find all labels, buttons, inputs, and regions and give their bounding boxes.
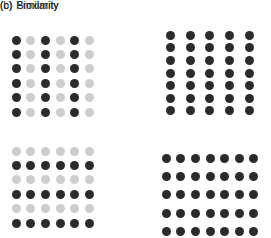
dot: [56, 93, 65, 102]
dot: [85, 108, 94, 117]
dot: [41, 175, 50, 184]
dot: [162, 172, 171, 181]
dot: [249, 154, 258, 163]
dot: [186, 43, 195, 52]
dot: [26, 219, 35, 228]
dot: [70, 64, 79, 73]
dot: [12, 219, 21, 228]
dot: [41, 204, 50, 213]
dot: [225, 81, 234, 90]
panel-proximity-tag: (c): [0, 0, 12, 11]
dot: [56, 79, 65, 88]
dot: [186, 81, 195, 90]
dot: [56, 147, 65, 156]
dot: [41, 108, 50, 117]
dot: [26, 50, 35, 59]
dot: [166, 94, 175, 103]
dot: [166, 43, 175, 52]
dot: [70, 79, 79, 88]
dot: [26, 108, 35, 117]
dot: [225, 56, 234, 65]
similarity-column-grouping-grid: [9, 33, 97, 119]
dot: [245, 69, 254, 78]
dot: [206, 154, 215, 163]
dot: [235, 209, 244, 218]
dot: [70, 175, 79, 184]
dot: [176, 227, 185, 236]
dot: [245, 94, 254, 103]
dot: [166, 106, 175, 115]
dot: [186, 94, 195, 103]
dot: [56, 50, 65, 59]
dot: [26, 175, 35, 184]
dot: [206, 209, 215, 218]
dot: [245, 106, 254, 115]
dot: [249, 209, 258, 218]
dot: [70, 219, 79, 228]
dot: [12, 190, 21, 199]
dot: [162, 190, 171, 199]
dot: [166, 56, 175, 65]
dot: [225, 31, 234, 40]
dot: [12, 36, 21, 45]
dot: [26, 36, 35, 45]
dot: [41, 190, 50, 199]
dot: [12, 64, 21, 73]
dot: [41, 219, 50, 228]
panel-proximity-title: (c)Proximity: [0, 0, 59, 11]
dot: [205, 106, 214, 115]
dot: [26, 161, 35, 170]
dot: [191, 190, 200, 199]
dot: [41, 36, 50, 45]
panel-proximity-label: Proximity: [16, 0, 58, 11]
dot: [70, 204, 79, 213]
dot: [191, 227, 200, 236]
dot: [205, 56, 214, 65]
dot: [206, 172, 215, 181]
proximity-row-grouping-grid: [159, 149, 261, 238]
dot: [186, 69, 195, 78]
dot: [70, 50, 79, 59]
dot: [166, 69, 175, 78]
dot: [186, 106, 195, 115]
dot: [245, 56, 254, 65]
dot: [12, 108, 21, 117]
dot: [191, 172, 200, 181]
dot: [166, 81, 175, 90]
dot: [205, 69, 214, 78]
dot: [166, 31, 175, 40]
dot: [220, 227, 229, 236]
dot: [85, 175, 94, 184]
dot: [225, 69, 234, 78]
panel-proximity: (c)Proximity: [0, 0, 59, 11]
dot: [70, 108, 79, 117]
dot: [85, 64, 94, 73]
dot: [176, 209, 185, 218]
dot: [245, 31, 254, 40]
dot: [56, 175, 65, 184]
dot: [85, 36, 94, 45]
dot: [26, 147, 35, 156]
dot: [206, 190, 215, 199]
dot: [26, 204, 35, 213]
dot: [85, 50, 94, 59]
dot: [56, 161, 65, 170]
dot: [235, 190, 244, 199]
dot: [205, 31, 214, 40]
dot: [12, 93, 21, 102]
similarity-row-grouping-grid: [9, 144, 97, 230]
dot: [41, 147, 50, 156]
dot: [12, 79, 21, 88]
dot: [162, 227, 171, 236]
dot: [220, 190, 229, 199]
dot: [85, 79, 94, 88]
dot: [235, 172, 244, 181]
dot: [56, 204, 65, 213]
proximity-column-grouping-grid: [161, 29, 259, 117]
dot: [85, 161, 94, 170]
dot: [176, 190, 185, 199]
dot: [70, 36, 79, 45]
dot: [220, 209, 229, 218]
dot: [235, 227, 244, 236]
dot: [220, 172, 229, 181]
